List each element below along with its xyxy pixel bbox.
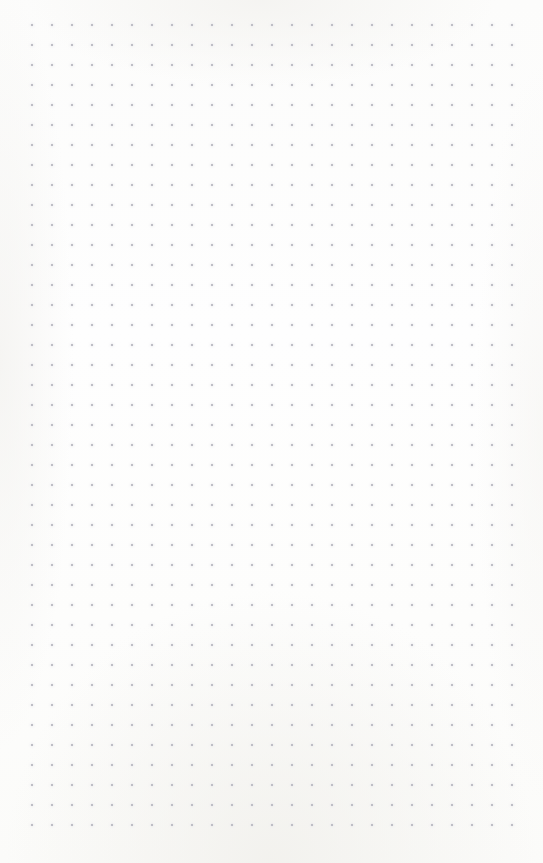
paper-texture-overlay — [0, 0, 543, 863]
dot-grid-halo-layer — [22, 15, 522, 835]
page-canvas — [0, 0, 543, 863]
dot-grid-layer — [22, 15, 522, 835]
